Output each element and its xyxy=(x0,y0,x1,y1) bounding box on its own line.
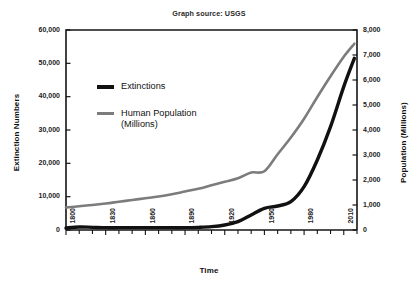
legend-item-extinctions: Extinctions xyxy=(97,81,165,92)
y-axis-right-tick-label: 2,000 xyxy=(363,176,399,183)
extinctions-population-chart: Graph source: USGS Extinction Numbers Po… xyxy=(0,0,418,283)
y-axis-left-tick-label: 50,000 xyxy=(24,59,60,66)
x-axis-tick-label: 1800 xyxy=(69,208,76,238)
legend-item-human-population: Human Population (Millions) xyxy=(97,108,197,130)
y-axis-left-tick-label: 40,000 xyxy=(24,92,60,99)
y-axis-left-tick-label: 30,000 xyxy=(24,126,60,133)
legend-label-extinctions: Extinctions xyxy=(121,81,165,92)
legend-swatch-population-icon xyxy=(97,112,114,115)
x-axis-tick-label: 1830 xyxy=(109,208,116,238)
y-axis-right-tick-label: 1,000 xyxy=(363,201,399,208)
x-axis-tick-label: 1890 xyxy=(188,208,195,238)
x-axis-tick-label: 2010 xyxy=(347,208,354,238)
y-axis-left-tick-label: 60,000 xyxy=(24,26,60,33)
y-axis-right-title: Population (Millions) xyxy=(399,83,408,203)
x-axis-tick-label: 1920 xyxy=(228,208,235,238)
y-axis-left-tick-label: 10,000 xyxy=(24,192,60,199)
legend-swatch-extinctions-icon xyxy=(97,85,114,89)
y-axis-right-tick-label: 7,000 xyxy=(363,51,399,58)
y-axis-right-tick-label: 5,000 xyxy=(363,101,399,108)
y-axis-right-tick-label: 6,000 xyxy=(363,76,399,83)
y-axis-right-tick-label: 4,000 xyxy=(363,126,399,133)
y-axis-left-tick-label: 20,000 xyxy=(24,159,60,166)
x-axis-title: Time xyxy=(0,266,418,275)
x-axis-tick-label: 1950 xyxy=(268,208,275,238)
x-axis-tick-label: 1980 xyxy=(307,208,314,238)
plot-frame xyxy=(66,30,357,230)
y-axis-right-tick-label: 0 xyxy=(363,226,399,233)
y-axis-right-tick-label: 3,000 xyxy=(363,151,399,158)
x-axis-tick-label: 1860 xyxy=(149,208,156,238)
legend-label-human-population: Human Population (Millions) xyxy=(121,108,197,130)
y-axis-left-tick-label: 0 xyxy=(24,226,60,233)
plot-canvas xyxy=(0,0,418,283)
series-layer xyxy=(66,44,354,228)
axes-frame xyxy=(66,30,357,230)
y-axis-left-title: Extinction Numbers xyxy=(12,73,21,193)
graph-source-note: Graph source: USGS xyxy=(0,9,418,18)
y-axis-right-tick-label: 8,000 xyxy=(363,26,399,33)
